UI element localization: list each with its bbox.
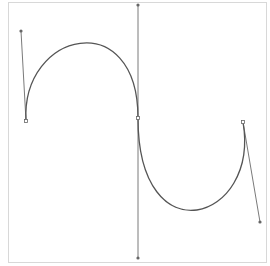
- anchor-end-point[interactable]: [242, 121, 245, 124]
- bezier-curve[interactable]: [26, 43, 245, 210]
- handle-middle-in-point[interactable]: [136, 3, 139, 6]
- anchor-middle-point[interactable]: [137, 117, 140, 120]
- handle-middle-out-point[interactable]: [136, 256, 139, 259]
- handle-end-point[interactable]: [258, 220, 261, 223]
- handle-start-point[interactable]: [19, 29, 22, 32]
- control-points: [19, 3, 261, 259]
- handle-end-line: [243, 122, 260, 222]
- handle-start-line: [21, 31, 26, 121]
- bezier-editor-canvas[interactable]: [0, 0, 270, 266]
- anchor-start-point[interactable]: [25, 120, 28, 123]
- handle-lines: [21, 5, 260, 258]
